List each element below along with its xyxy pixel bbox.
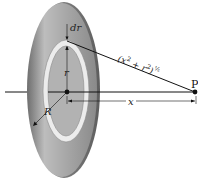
R-label: R bbox=[43, 106, 52, 117]
charged-disk-diagram: r dr (x2 + r2)½ P x R bbox=[0, 0, 198, 178]
svg-text:(x2 + r2)½: (x2 + r2)½ bbox=[116, 51, 161, 79]
point-p-label: P bbox=[191, 78, 198, 91]
x-label: x bbox=[128, 96, 134, 107]
x-arrowhead-right-icon bbox=[191, 99, 195, 102]
dr-label: dr bbox=[70, 22, 82, 33]
distance-label: (x2 + r2)½ bbox=[116, 51, 161, 79]
